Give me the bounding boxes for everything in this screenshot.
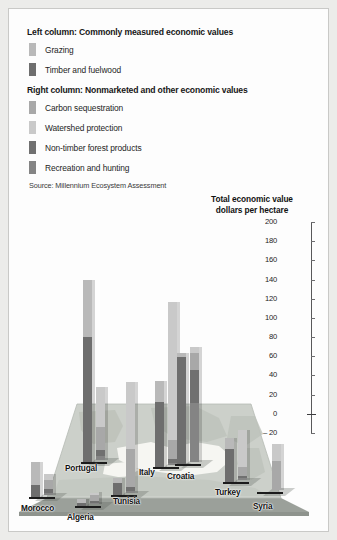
source-note: Source: Millennium Ecosystem Assessment <box>29 181 329 190</box>
legend-swatch-carbon-sequestration <box>29 101 36 114</box>
legend-item-watershed-protection: Watershed protection <box>29 121 329 134</box>
legend-item-non-timber-forest-products: Non-timber forest products <box>29 141 329 154</box>
legend-label-watershed-protection: Watershed protection <box>45 123 122 133</box>
legend-item-carbon-sequestration: Carbon sequestration <box>29 101 329 114</box>
figure-panel: Left column: Commonly measured economic … <box>8 8 329 532</box>
legend-item-recreation-and-hunting: Recreation and hunting <box>29 161 329 174</box>
country-label-syria: Syria <box>253 502 272 511</box>
legend-item-grazing: Grazing <box>29 43 329 56</box>
legend-swatch-timber <box>29 63 36 76</box>
axis-title-line1: Total economic value <box>186 194 318 205</box>
bar-syria-nonmarketed[interactable] <box>272 444 281 490</box>
legend-header-right-column: Right column: Nonmarketed and other econ… <box>27 85 329 95</box>
legend-label-carbon-sequestration: Carbon sequestration <box>45 103 123 113</box>
bar-segment-carbon-sequestration <box>272 461 281 490</box>
legend-item-timber: Timber and fuelwood <box>29 63 329 76</box>
legend-label-timber: Timber and fuelwood <box>45 65 121 75</box>
chart-area: 200180160140120100806040200– 20 MoroccoA… <box>9 214 329 532</box>
bar-group-syria[interactable]: Syria <box>9 214 329 532</box>
legend-swatch-non-timber-forest-products <box>29 141 36 154</box>
axis-title: Total economic value dollars per hectare <box>186 194 318 215</box>
legend-label-recreation-and-hunting: Recreation and hunting <box>45 163 129 173</box>
chart-legend: Left column: Commonly measured economic … <box>9 9 329 190</box>
bar-side-face <box>281 444 284 490</box>
bar-segment-watershed-protection <box>272 444 281 461</box>
bar-group-baseline <box>257 492 283 494</box>
legend-header-left-column: Left column: Commonly measured economic … <box>27 27 329 37</box>
legend-swatch-watershed-protection <box>29 121 36 134</box>
legend-label-grazing: Grazing <box>45 45 74 55</box>
legend-swatch-grazing <box>29 43 36 56</box>
legend-label-non-timber-forest-products: Non-timber forest products <box>45 143 142 153</box>
legend-swatch-recreation-and-hunting <box>29 161 36 174</box>
